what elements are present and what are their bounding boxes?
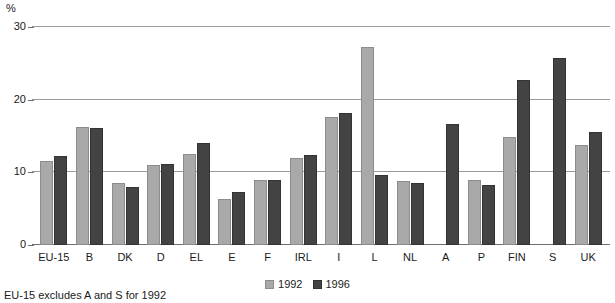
- bar-f-1992: [254, 180, 267, 245]
- bar-fin-1992: [503, 137, 516, 245]
- bar-d-1996: [161, 164, 174, 245]
- bar-nl-1996: [411, 183, 424, 245]
- x-tick-label: IRL: [285, 250, 321, 268]
- x-tick-label: E: [214, 250, 250, 268]
- bar-irl-1996: [304, 155, 317, 245]
- bar-group: [214, 27, 250, 245]
- y-tick-label: 10: [2, 166, 26, 177]
- x-tick-label: S: [535, 250, 571, 268]
- bar-s-1996: [553, 58, 566, 245]
- bar-e-1992: [218, 199, 231, 246]
- x-tick-label: NL: [392, 250, 428, 268]
- bar-nl-1992: [397, 181, 410, 245]
- y-tick-label: 20: [2, 94, 26, 105]
- x-tick-label: B: [72, 250, 108, 268]
- bar-f-1996: [268, 180, 281, 245]
- bar-group: [464, 27, 500, 245]
- bar-group: [250, 27, 286, 245]
- bar-e-1996: [232, 192, 245, 245]
- bar-l-1992: [361, 47, 374, 245]
- bar-b-1996: [90, 128, 103, 245]
- x-tick-label: L: [357, 250, 393, 268]
- bar-group: [179, 27, 215, 245]
- y-axis-unit-label: %: [6, 2, 16, 14]
- x-tick-label: F: [250, 250, 286, 268]
- bar-uk-1992: [575, 145, 588, 245]
- bar-dk-1996: [126, 187, 139, 245]
- x-tick-label: DK: [107, 250, 143, 268]
- bar-group: [535, 27, 571, 245]
- bar-group: [570, 27, 606, 245]
- bar-d-1992: [147, 165, 160, 245]
- bar-irl-1992: [290, 158, 303, 245]
- chart-footnote: EU-15 excludes A and S for 1992: [4, 289, 166, 302]
- bar-p-1992: [468, 180, 481, 245]
- y-tick-mark: [28, 27, 34, 28]
- bar-group: [285, 27, 321, 245]
- bar-l-1996: [375, 175, 388, 245]
- x-tick-label: FIN: [499, 250, 535, 268]
- y-tick-mark: [28, 245, 34, 246]
- plot-area: [32, 27, 610, 245]
- bar-p-1996: [482, 185, 495, 245]
- x-tick-label: EL: [179, 250, 215, 268]
- bar-group: [321, 27, 357, 245]
- bar-i-1996: [339, 113, 352, 245]
- y-tick-label: 30: [2, 21, 26, 32]
- legend-item-1996: 1996: [313, 278, 350, 290]
- x-tick-label: P: [464, 250, 500, 268]
- bar-el-1996: [197, 143, 210, 245]
- x-tick-label: I: [321, 250, 357, 268]
- bar-group: [428, 27, 464, 245]
- bar-dk-1992: [112, 183, 125, 245]
- bar-fin-1996: [517, 80, 530, 245]
- bar-uk-1996: [589, 132, 602, 245]
- bar-group: [392, 27, 428, 245]
- y-tick-label: 0: [2, 239, 26, 250]
- bar-chart: % 0102030 EU-15BDKDELEFIRLILNLAPFINSUK 1…: [0, 0, 615, 303]
- bar-el-1992: [183, 154, 196, 245]
- legend-label: 1992: [278, 278, 302, 290]
- legend-swatch-icon: [265, 280, 274, 289]
- legend-label: 1996: [326, 278, 350, 290]
- x-tick-label: A: [428, 250, 464, 268]
- bar-group: [107, 27, 143, 245]
- bar-eu-15-1992: [40, 161, 53, 245]
- bar-group: [499, 27, 535, 245]
- bar-b-1992: [76, 127, 89, 245]
- bar-eu-15-1996: [54, 156, 67, 245]
- y-tick-mark: [28, 100, 34, 101]
- y-tick-mark: [28, 172, 34, 173]
- x-tick-label: D: [143, 250, 179, 268]
- bar-a-1996: [446, 124, 459, 245]
- x-tick-label: UK: [570, 250, 606, 268]
- bar-i-1992: [325, 117, 338, 245]
- legend-swatch-icon: [313, 280, 322, 289]
- x-tick-label: EU-15: [36, 250, 72, 268]
- bar-group: [36, 27, 72, 245]
- bar-group: [143, 27, 179, 245]
- legend-item-1992: 1992: [265, 278, 302, 290]
- bar-group: [357, 27, 393, 245]
- bar-groups: [32, 27, 610, 245]
- bar-group: [72, 27, 108, 245]
- x-axis-tick-labels: EU-15BDKDELEFIRLILNLAPFINSUK: [32, 250, 610, 268]
